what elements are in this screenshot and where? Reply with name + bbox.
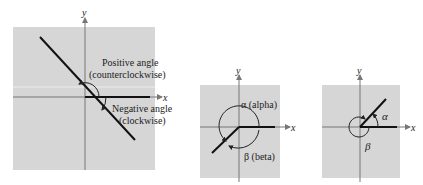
positive-angle-label-1: Positive angle	[102, 57, 159, 68]
negative-angle-label-1: Negative angle	[112, 103, 173, 114]
figure-first-quadrant: x y α β	[322, 65, 416, 182]
y-axis-label: y	[356, 65, 362, 76]
negative-angle-label-2: (clockwise)	[119, 115, 166, 127]
beta-label: β (beta)	[244, 151, 275, 163]
x-axis-label: x	[162, 92, 168, 103]
panel-background	[322, 85, 400, 178]
y-axis-label: y	[81, 7, 87, 18]
x-axis-label: x	[290, 122, 296, 133]
panel-background	[13, 27, 155, 170]
figure-alpha-beta: x y α (alpha) β (beta)	[200, 65, 296, 182]
x-axis-label: x	[410, 122, 416, 133]
y-axis-label: y	[235, 65, 241, 76]
positive-angle-label-2: (counterclockwise)	[89, 69, 166, 81]
alpha-label: α	[382, 110, 388, 122]
alpha-label: α (alpha)	[241, 99, 277, 111]
angle-diagrams: x y Positive angle (counterclockwise) Ne…	[0, 0, 423, 185]
beta-label: β	[364, 140, 371, 152]
figure-positive-negative: x y Positive angle (counterclockwise) Ne…	[13, 7, 173, 170]
